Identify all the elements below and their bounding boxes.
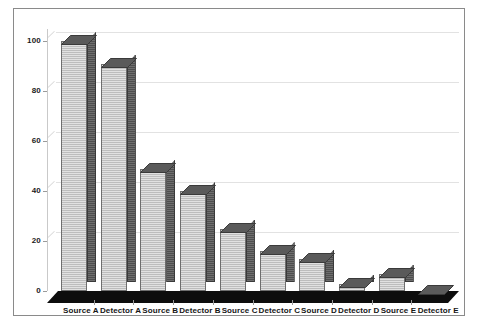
- bar-top-face: [299, 250, 334, 260]
- x-axis-separator: [94, 300, 95, 305]
- bar: [379, 274, 405, 292]
- x-axis-label: Detector E: [412, 306, 464, 315]
- x-axis-separator: [213, 300, 214, 305]
- bar: [140, 169, 166, 292]
- x-axis-separator: [253, 300, 254, 305]
- bar-top-face: [418, 282, 453, 292]
- bar-top-face: [61, 32, 96, 42]
- bar: [418, 291, 444, 292]
- x-axis-separator: [332, 300, 333, 305]
- x-axis-separator: [133, 300, 134, 305]
- bar: [180, 191, 206, 291]
- bar-chart: 020406080100 Source ADetector ASource BD…: [0, 0, 479, 328]
- x-axis-separator: [372, 300, 373, 305]
- bar-top-face: [379, 265, 414, 275]
- bar-series: [47, 29, 459, 291]
- y-tick-label: 80: [15, 86, 41, 95]
- bar-side-face: [127, 55, 136, 283]
- bar-top-face: [260, 242, 295, 252]
- x-axis-separator: [411, 300, 412, 305]
- plot-area: 020406080100: [47, 29, 459, 301]
- bar-side-face: [166, 160, 175, 283]
- bar-front-face: [220, 229, 246, 292]
- bar-front-face: [140, 169, 166, 292]
- bar-front-face: [101, 64, 127, 292]
- y-tick-label: 40: [15, 186, 41, 195]
- bar-side-face: [206, 182, 215, 282]
- chart-frame-border: 020406080100 Source ADetector ASource BD…: [13, 8, 465, 316]
- bar: [220, 229, 246, 292]
- bar-front-face: [180, 191, 206, 291]
- bar-top-face: [140, 160, 175, 170]
- y-tick-label: 0: [15, 286, 41, 295]
- bar-top-face: [220, 220, 255, 230]
- bar-side-face: [87, 32, 96, 282]
- x-axis-separator: [173, 300, 174, 305]
- bar-top-face: [339, 275, 374, 285]
- bar: [101, 64, 127, 292]
- bar: [61, 41, 87, 291]
- y-tick-label: 60: [15, 136, 41, 145]
- bar: [339, 284, 365, 292]
- x-axis-labels: Source ADetector ASource BDetector BSour…: [47, 306, 459, 322]
- bar: [260, 251, 286, 291]
- x-axis-separator: [292, 300, 293, 305]
- y-tick-label: 20: [15, 236, 41, 245]
- bar-front-face: [260, 251, 286, 291]
- bar-top-face: [101, 55, 136, 65]
- bar-front-face: [61, 41, 87, 291]
- bar: [299, 259, 325, 292]
- y-tick-label: 100: [15, 36, 41, 45]
- bar-top-face: [180, 182, 215, 192]
